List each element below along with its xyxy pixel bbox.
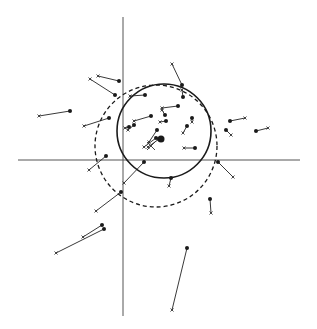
cross-marker-icon [143,146,146,149]
dot-marker-icon [100,223,104,227]
dot-marker-icon [208,197,212,201]
dot-marker-icon [190,116,194,120]
dot-marker-icon [164,119,168,123]
cross-marker-icon [127,129,130,132]
dot-marker-icon [185,246,189,250]
displacement-vector [83,116,112,128]
displacement-vector [95,190,124,213]
dot-marker-icon [181,95,185,99]
displacement-vector [254,127,270,134]
cross-marker-icon [161,109,164,112]
dot-marker-icon [113,93,117,97]
displacement-vector [133,114,154,123]
displacement-vector [224,128,233,137]
displacement-vector [216,160,235,179]
dot-marker-icon [169,176,173,180]
dot-marker-icon [176,104,180,108]
displacement-vector [129,93,148,98]
dot-marker-icon [102,227,106,231]
dot-marker-icon [228,119,232,123]
cross-marker-icon [147,142,155,150]
displacement-vector [228,117,247,124]
dot-marker-icon [132,123,136,127]
displacement-vector [38,109,73,118]
displacement-vector [55,227,107,255]
displacement-vector [171,246,190,312]
dot-marker-icon [155,128,159,132]
dot-marker-icon [117,79,121,83]
dot-marker-icon [68,109,72,113]
dot-marker-icon [142,160,146,164]
dot-marker-icon [104,154,108,158]
circles-group [95,84,217,207]
dot-marker-icon [193,146,197,150]
displacement-vector [159,119,169,124]
dot-marker-icon [224,128,228,132]
dot-marker-icon [149,114,153,118]
vector-diagram [0,0,317,329]
displacement-vector [148,128,160,144]
cross-marker-icon [95,210,98,213]
dashed-circle [95,85,217,207]
dot-marker-icon [216,160,220,164]
dot-marker-icon [143,93,147,97]
displacement-vector [97,75,122,84]
displacement-vector [89,78,118,98]
cross-marker-icon [232,176,235,179]
dot-marker-icon [185,124,189,128]
large-dot-icon [158,136,165,143]
cross-marker-icon [82,236,85,239]
dot-marker-icon [107,116,111,120]
cross-marker-icon [182,132,185,135]
dot-marker-icon [163,113,167,117]
displacement-vector [88,154,109,172]
dot-marker-icon [180,83,184,87]
cross-marker-icon [88,169,91,172]
displacement-vector [183,146,198,150]
displacement-vector [161,109,168,118]
displacement-vector [182,124,190,135]
cross-marker-icon [230,134,233,137]
displacement-vector [190,116,194,124]
vectors-group [38,63,270,312]
dot-marker-icon [254,129,258,133]
displacement-vector [181,89,186,100]
displacement-vector [208,197,213,215]
displacement-vector [171,63,185,88]
solid-circle [117,84,211,178]
dot-marker-icon [119,190,123,194]
cross-marker-icon [55,252,58,255]
cross-marker-icon [89,78,92,81]
cross-marker-icon [171,63,174,66]
